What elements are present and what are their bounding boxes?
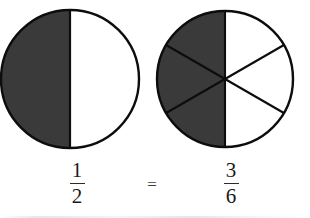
left-circle-group <box>1 10 139 148</box>
right-fraction-denominator: 6 <box>216 186 246 207</box>
left-circle-slice-unshaded <box>70 10 139 148</box>
left-fraction-numerator: 1 <box>62 160 92 181</box>
scan-artifact-line <box>0 216 310 218</box>
right-fraction: 3 6 <box>216 160 246 207</box>
right-fraction-numerator: 3 <box>216 160 246 181</box>
equals-sign: = <box>143 176 161 193</box>
left-circle-slice-shaded <box>1 10 70 148</box>
right-circle-group <box>157 11 293 147</box>
left-fraction: 1 2 <box>62 160 92 207</box>
left-fraction-denominator: 2 <box>62 186 92 207</box>
